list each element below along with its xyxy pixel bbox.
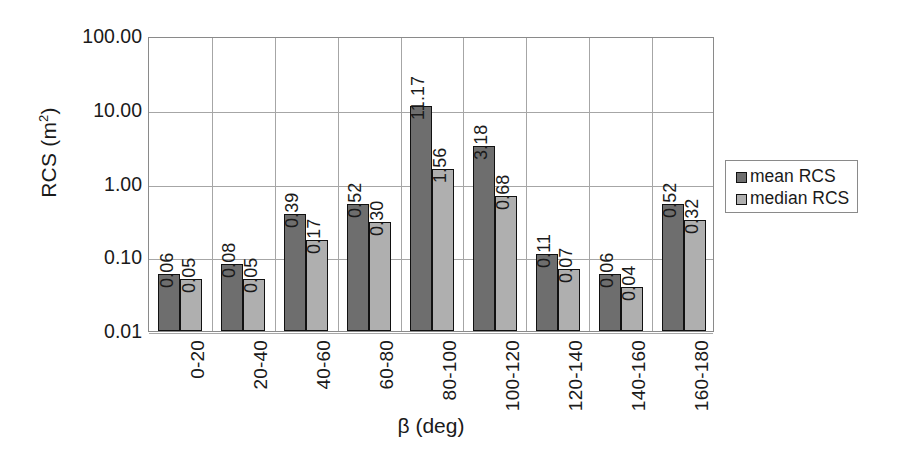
y-axis-tick-label: 100.00 xyxy=(50,27,142,47)
bar-value-label: 0.07 xyxy=(557,247,575,282)
x-axis-tick-label: 160-180 xyxy=(692,340,711,411)
bar-value-label: 11.17 xyxy=(409,76,427,120)
bar-median[interactable] xyxy=(369,222,391,331)
legend-swatch-icon xyxy=(736,194,747,205)
y-axis-tick-labels: 100.0010.001.000.100.01 xyxy=(48,0,142,457)
legend-item[interactable]: median RCS xyxy=(736,189,857,209)
legend-label: median RCS xyxy=(750,190,849,208)
bar-value-label: 0.17 xyxy=(305,219,323,254)
bar-value-label: 0.52 xyxy=(661,183,679,218)
x-axis-tick-label: 20-40 xyxy=(251,340,270,390)
x-axis-tick-label: 120-140 xyxy=(566,340,585,411)
plot-area: 0.060.050.080.050.390.170.520.3011.171.5… xyxy=(148,37,714,332)
bar-value-label: 0.39 xyxy=(283,192,301,227)
bar-value-label: 0.06 xyxy=(158,252,176,287)
gridline-horizontal xyxy=(149,333,713,334)
bar-value-label: 0.30 xyxy=(368,201,386,236)
y-axis-tick-label: 0.10 xyxy=(50,249,142,269)
x-axis-tick-label: 100-120 xyxy=(503,340,522,411)
x-axis-tick-label: 140-160 xyxy=(629,340,648,411)
legend-swatch-icon xyxy=(736,172,747,183)
bar-value-label: 0.05 xyxy=(242,258,260,293)
bar-value-label: 0.11 xyxy=(535,234,553,268)
y-axis-tick-label: 0.01 xyxy=(50,322,142,342)
bar-mean[interactable] xyxy=(347,204,369,331)
bar-group: 0.110.07 xyxy=(526,38,589,331)
legend-label: mean RCS xyxy=(750,168,836,186)
bar-mean[interactable] xyxy=(284,214,306,331)
bar-median[interactable] xyxy=(495,196,517,331)
rcs-bar-chart: RCS (m2) 100.0010.001.000.100.01 0.060.0… xyxy=(0,0,921,457)
bar-value-label: 0.68 xyxy=(494,174,512,209)
bar-value-label: 0.08 xyxy=(220,243,238,278)
bar-group: 0.390.17 xyxy=(275,38,338,331)
x-axis-tick-label: 80-100 xyxy=(440,340,459,400)
bar-group: 0.060.05 xyxy=(149,38,212,331)
bar-mean[interactable] xyxy=(662,204,684,331)
bar-value-label: 0.05 xyxy=(180,258,198,293)
bar-group: 11.171.56 xyxy=(401,38,464,331)
legend-item[interactable]: mean RCS xyxy=(736,167,857,187)
bar-value-label: 0.52 xyxy=(346,183,364,218)
bar-group: 0.080.05 xyxy=(212,38,275,331)
bar-mean[interactable] xyxy=(410,106,432,331)
y-axis-tick-label: 1.00 xyxy=(50,175,142,195)
bar-value-label: 1.56 xyxy=(431,148,449,183)
bar-group: 0.520.30 xyxy=(338,38,401,331)
bar-value-label: 0.04 xyxy=(620,265,638,300)
chart-legend: mean RCSmedian RCS xyxy=(725,160,858,213)
bar-group: 0.520.32 xyxy=(652,38,715,331)
bar-group: 0.060.04 xyxy=(589,38,652,331)
bar-median[interactable] xyxy=(684,220,706,331)
bar-group: 3.180.68 xyxy=(463,38,526,331)
bar-value-label: 0.32 xyxy=(683,199,701,234)
bar-median[interactable] xyxy=(432,169,454,331)
x-axis-tick-label: 40-60 xyxy=(314,340,333,390)
bar-mean[interactable] xyxy=(473,146,495,331)
x-axis-tick-label: 0-20 xyxy=(188,340,207,379)
x-axis-tick-label: 60-80 xyxy=(377,340,396,390)
x-axis-title: β (deg) xyxy=(148,414,714,438)
bar-value-label: 0.06 xyxy=(598,252,616,287)
bar-value-label: 3.18 xyxy=(472,125,490,160)
y-axis-tick-label: 10.00 xyxy=(50,101,142,121)
